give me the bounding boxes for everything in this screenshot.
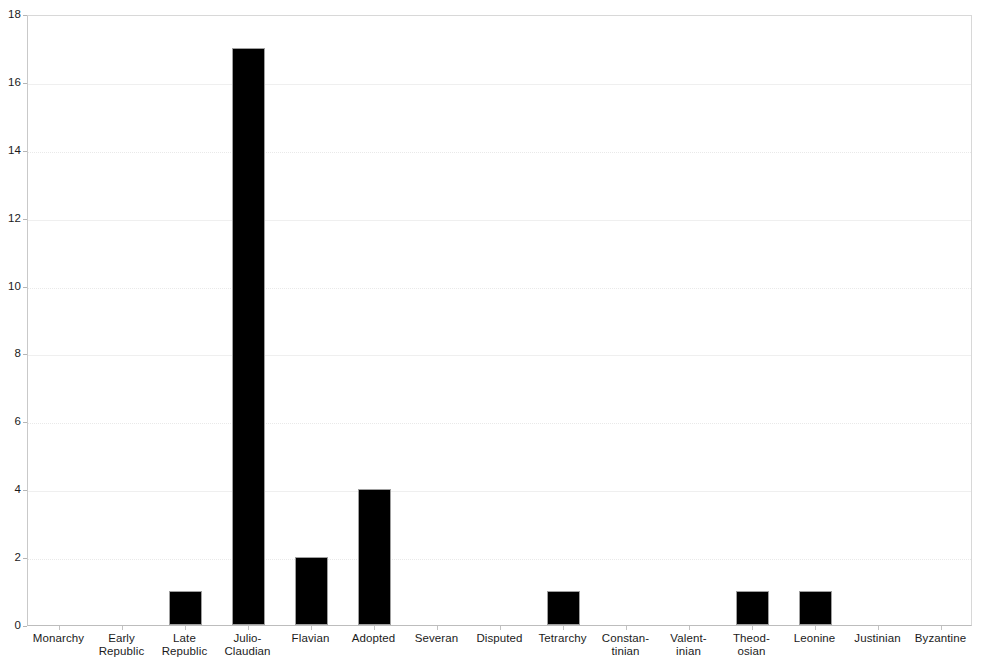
y-tick-label: 18 [0, 9, 21, 21]
y-tick-label: 6 [0, 416, 21, 428]
y-tick-label: 0 [0, 620, 21, 632]
x-tick-mark [500, 626, 501, 630]
x-tick-mark [689, 626, 690, 630]
y-tick-label: 2 [0, 552, 21, 564]
x-tick-label: Tetrarchy [531, 632, 594, 645]
x-tick-mark [311, 626, 312, 630]
x-tick-mark [878, 626, 879, 630]
x-tick-label: Monarchy [27, 632, 90, 645]
bar-chart: 024681012141618 MonarchyEarly RepublicLa… [0, 0, 989, 665]
x-tick-mark [248, 626, 249, 630]
x-tick-mark [815, 626, 816, 630]
y-tick-label: 16 [0, 77, 21, 89]
plot-area [27, 15, 972, 626]
x-tick-mark [752, 626, 753, 630]
x-tick-mark [185, 626, 186, 630]
x-tick-mark [59, 626, 60, 630]
y-tick-label: 10 [0, 281, 21, 293]
x-tick-label: Flavian [279, 632, 342, 645]
bar [295, 557, 328, 625]
x-tick-label: Justinian [846, 632, 909, 645]
x-tick-mark [122, 626, 123, 630]
x-tick-label: Byzantine [909, 632, 972, 645]
y-tick-mark [23, 626, 27, 627]
x-tick-label: Early Republic [90, 632, 153, 658]
x-tick-label: Julio- Claudian [216, 632, 279, 658]
x-tick-label: Theod- osian [720, 632, 783, 658]
x-tick-label: Valent- inian [657, 632, 720, 658]
x-tick-label: Leonine [783, 632, 846, 645]
x-tick-mark [941, 626, 942, 630]
bars [28, 16, 971, 625]
y-tick-label: 14 [0, 145, 21, 157]
x-tick-mark [437, 626, 438, 630]
x-tick-mark [563, 626, 564, 630]
bar [799, 591, 832, 625]
bar [736, 591, 769, 625]
y-tick-label: 4 [0, 484, 21, 496]
bar [232, 48, 265, 625]
x-tick-label: Adopted [342, 632, 405, 645]
bar [169, 591, 202, 625]
x-tick-label: Disputed [468, 632, 531, 645]
x-tick-label: Constan- tinian [594, 632, 657, 658]
x-tick-mark [374, 626, 375, 630]
x-tick-label: Severan [405, 632, 468, 645]
x-axis: MonarchyEarly RepublicLate RepublicJulio… [0, 632, 989, 665]
bar [547, 591, 580, 625]
y-tick-label: 8 [0, 348, 21, 360]
x-tick-label: Late Republic [153, 632, 216, 658]
y-tick-label: 12 [0, 213, 21, 225]
x-tick-mark [626, 626, 627, 630]
y-axis: 024681012141618 [0, 0, 27, 665]
bar [358, 489, 391, 625]
